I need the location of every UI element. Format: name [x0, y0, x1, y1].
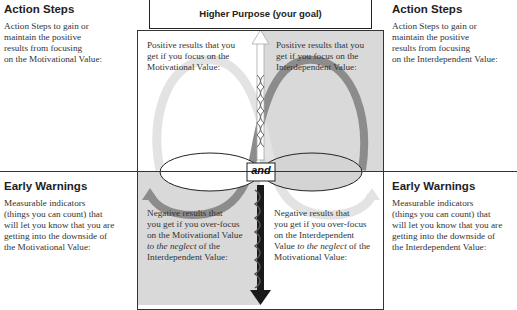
text-line: on the Interdependent: [274, 230, 370, 241]
left-early-warnings-title: Early Warnings: [4, 180, 87, 192]
italic-text: to the neglect: [297, 241, 347, 251]
text-line: results from focusing: [4, 43, 102, 54]
higher-purpose-label: Higher Purpose (your goal): [150, 8, 371, 19]
higher-purpose-box[interactable]: Higher Purpose (your goal): [149, 0, 372, 29]
left-action-steps-text: Action Steps to gain or maintain the pos…: [4, 21, 102, 65]
left-early-warnings-text: Measurable indicators (things you can co…: [4, 198, 114, 253]
text-fragment: of the: [347, 241, 370, 251]
text-line: on the Motivational Value: [147, 230, 243, 241]
text-line: Measurable indicators: [392, 198, 502, 209]
text-line: you get if you over-focus: [274, 219, 370, 230]
right-action-steps-text: Action Steps to gain or maintain the pos…: [392, 21, 498, 65]
text-line: get if you focus on the: [276, 51, 364, 62]
quadrant-top-left-text: Positive results that you get if you foc…: [147, 40, 235, 73]
text-line: Action Steps to gain or: [4, 21, 102, 32]
text-line: Positive results that you: [147, 40, 235, 51]
text-line: maintain the positive: [392, 32, 498, 43]
right-early-warnings-title: Early Warnings: [392, 180, 475, 192]
text-line: getting into the downside of: [392, 231, 502, 242]
text-line: (things you can count) that: [392, 209, 502, 220]
text-line: Motivational Value:: [147, 62, 235, 73]
text-line: the Interdependent Value:: [392, 242, 502, 253]
text-line: Interdependent Value:: [147, 252, 243, 263]
text-line: on the Interdependent Value:: [392, 54, 498, 65]
text-line: Positive results that you: [276, 40, 364, 51]
text-fragment: of the: [197, 241, 220, 251]
text-line: Interdependent Value:: [276, 62, 364, 73]
quadrant-bottom-right-text: Negative results that you get if you ove…: [274, 208, 370, 263]
text-fragment: Value: [274, 241, 297, 251]
text-line: Negative results that: [274, 208, 370, 219]
text-line: on the Motivational Value:: [4, 54, 102, 65]
and-label: and: [247, 164, 275, 176]
text-line: Motivational Value:: [274, 252, 370, 263]
text-line: you get if you over-focus: [147, 219, 243, 230]
text-line: results from focusing: [392, 43, 498, 54]
quadrant-top-right-text: Positive results that you get if you foc…: [276, 40, 364, 73]
quadrant-bottom-left-text: Negative results that you get if you ove…: [147, 208, 243, 263]
left-action-steps-title: Action Steps: [4, 3, 74, 15]
right-action-steps-title: Action Steps: [392, 3, 462, 15]
text-line: Value to the neglect of the: [274, 241, 370, 252]
text-line: get if you focus on the: [147, 51, 235, 62]
text-line: Negative results that: [147, 208, 243, 219]
text-line: will let you know that you are: [4, 220, 114, 231]
text-line: maintain the positive: [4, 32, 102, 43]
text-line: (things you can count) that: [4, 209, 114, 220]
text-line: Action Steps to gain or: [392, 21, 498, 32]
text-line: to the neglect of the: [147, 241, 243, 252]
italic-text: to the neglect: [147, 241, 197, 251]
text-line: Measurable indicators: [4, 198, 114, 209]
text-line: the Motivational Value:: [4, 242, 114, 253]
text-line: will let you know that you are: [392, 220, 502, 231]
text-line: getting into the downside of: [4, 231, 114, 242]
right-early-warnings-text: Measurable indicators (things you can co…: [392, 198, 502, 253]
